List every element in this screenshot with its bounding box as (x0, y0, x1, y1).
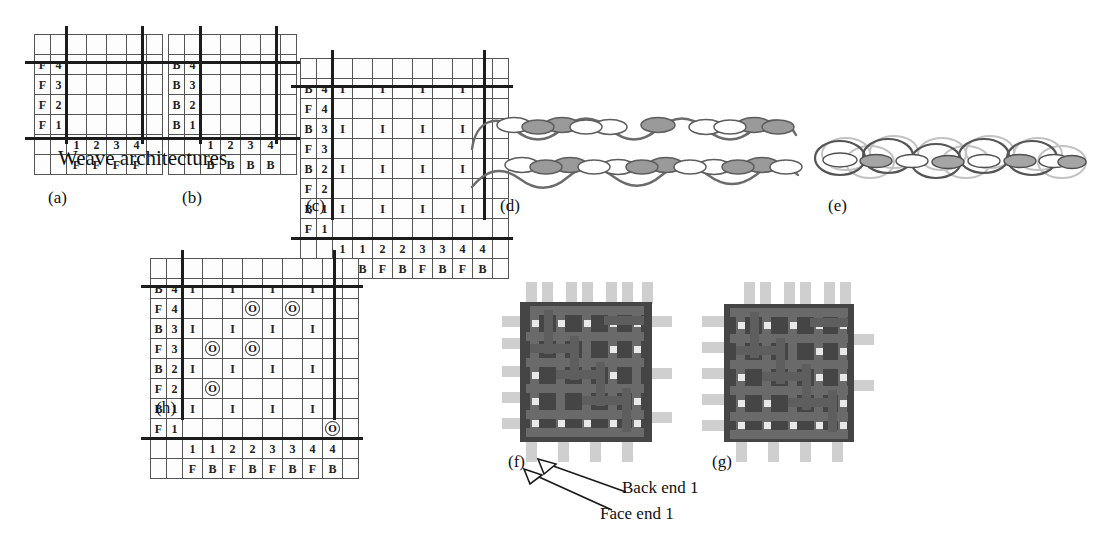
weave-cell (453, 219, 473, 239)
weave-cell (243, 419, 263, 439)
col-label-number: 3 (433, 239, 453, 259)
row-label-number: 1 (167, 419, 183, 439)
col-label-set: B (473, 259, 493, 279)
grid-pad-cell (203, 259, 223, 279)
weave-cell: O (203, 339, 223, 359)
weave-row: F1 (301, 219, 509, 239)
weave-cell: I (373, 159, 393, 179)
panel-caption-c: (c) (306, 196, 325, 216)
weave-cell (67, 75, 87, 95)
row-label-set: B (169, 75, 185, 95)
row-label-set: B (301, 159, 317, 179)
col-label-set: B (241, 155, 261, 175)
weave-cell (203, 319, 223, 339)
grid-pad-cell (353, 59, 373, 79)
weave-cell (353, 219, 373, 239)
grid-col-number-row: 11223344 (301, 239, 509, 259)
weave-cell: I (413, 199, 433, 219)
weave-cell (223, 379, 243, 399)
registration-rule-vertical-a2 (141, 26, 144, 144)
row-label-set: F (151, 419, 167, 439)
registration-rule-horizontal-b2 (159, 137, 305, 140)
grid-spacer (301, 59, 317, 79)
registration-rule-vertical-h2 (333, 250, 336, 420)
registration-rule-horizontal-b (159, 61, 305, 64)
col-label-set: B (261, 155, 281, 175)
weave-cell (433, 99, 453, 119)
fabric-render-g (700, 280, 880, 470)
weave-cell (333, 139, 353, 159)
cell-mark-i: I (460, 203, 465, 215)
row-label-set: B (151, 279, 167, 299)
row-label-set: F (151, 339, 167, 359)
registration-rule-horizontal-h (141, 285, 363, 288)
weave-cell: I (223, 319, 243, 339)
grid-pad-cell (107, 35, 127, 55)
grid-pad-cell (281, 55, 297, 75)
weave-cell: I (223, 399, 243, 419)
cell-mark-i: I (190, 403, 195, 415)
weave-cell (333, 179, 353, 199)
weave-cell (413, 99, 433, 119)
weave-cell (201, 55, 221, 75)
col-label-set: B (283, 459, 303, 479)
weave-cell: I (413, 119, 433, 139)
weave-cell (107, 55, 127, 75)
weave-cell (201, 75, 221, 95)
grid-pad-cell (147, 115, 163, 135)
cell-mark-i: I (380, 123, 385, 135)
cell-mark-i: I (380, 203, 385, 215)
weave-cell: I (413, 159, 433, 179)
row-label-set: F (301, 99, 317, 119)
grid-pad-cell (281, 95, 297, 115)
row-label-set: F (151, 299, 167, 319)
weave-cell: O (323, 419, 343, 439)
grid-pad-cell (343, 299, 359, 319)
row-label-set: B (169, 55, 185, 75)
weave-cell (413, 219, 433, 239)
yarn-crosssection-diagram-d (470, 105, 800, 200)
grid-spacer (493, 259, 509, 279)
col-label-number: 1 (183, 439, 203, 459)
grid-pad-cell (343, 319, 359, 339)
weave-cell (353, 159, 373, 179)
registration-rule-horizontal-a (25, 61, 171, 64)
weave-cell (183, 299, 203, 319)
cell-mark-i: I (310, 323, 315, 335)
grid-spacer (151, 259, 167, 279)
row-label-set: F (301, 219, 317, 239)
grid-spacer (151, 459, 167, 479)
col-label-set: B (433, 259, 453, 279)
grid-pad-cell (223, 259, 243, 279)
cell-mark-o: O (205, 381, 220, 396)
cell-mark-i: I (460, 163, 465, 175)
weave-cell: I (263, 319, 283, 339)
weave-row: F1O (151, 419, 359, 439)
weave-cell: I (333, 159, 353, 179)
cell-mark-i: I (380, 163, 385, 175)
panel-d (470, 105, 800, 200)
weave-cell: I (263, 359, 283, 379)
cell-mark-i: I (340, 123, 345, 135)
weave-cell (413, 179, 433, 199)
weave-cell (303, 419, 323, 439)
grid-spacer (167, 459, 183, 479)
weave-cell: I (373, 79, 393, 99)
panel-caption-h: (h) (156, 398, 176, 418)
weave-cell (221, 75, 241, 95)
col-label-number: 3 (283, 439, 303, 459)
grid-pad-cell (303, 259, 323, 279)
grid-pad-cell (147, 55, 163, 75)
weave-cell (283, 339, 303, 359)
grid-spacer (35, 35, 51, 55)
panel-g (700, 280, 880, 470)
cell-mark-i: I (230, 403, 235, 415)
grid-col-number-row: 11223344 (151, 439, 359, 459)
weave-cell (241, 115, 261, 135)
grid-pad-cell (413, 59, 433, 79)
weave-cell: I (413, 79, 433, 99)
row-label-set: B (151, 319, 167, 339)
row-label-set: B (169, 95, 185, 115)
cell-mark-o: O (245, 301, 260, 316)
weave-cell (393, 159, 413, 179)
